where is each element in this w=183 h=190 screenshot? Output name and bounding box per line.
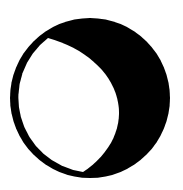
moon-phase-icon bbox=[0, 0, 183, 190]
